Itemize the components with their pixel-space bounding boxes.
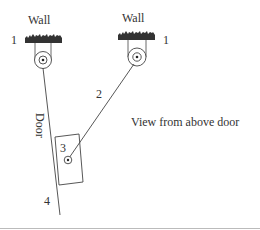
door-line [43,68,60,215]
left-wall-number: 1 [11,33,17,47]
door-end-label: 4 [44,194,50,208]
door-pulley-label: 3 [60,141,66,155]
left-pulley [35,43,52,69]
door-label: Door [33,113,47,138]
right-wall-number: 1 [163,33,169,47]
left-wall-label: Wall [28,13,51,27]
left-wall: Wall 1 [11,13,62,47]
right-pulley [128,40,146,66]
rope-2 [69,64,134,158]
door-pulley-diagram: Wall 1 Wall 1 Door 2 3 4 View from above [0,0,260,230]
rope-label: 2 [96,87,102,101]
right-wall-label: Wall [122,11,145,25]
door-bracket: 3 [55,134,83,185]
left-wall-hatch [25,34,62,43]
caption: View from above door [131,115,239,129]
right-wall: Wall 1 [118,11,169,47]
right-wall-hatch [118,31,155,40]
